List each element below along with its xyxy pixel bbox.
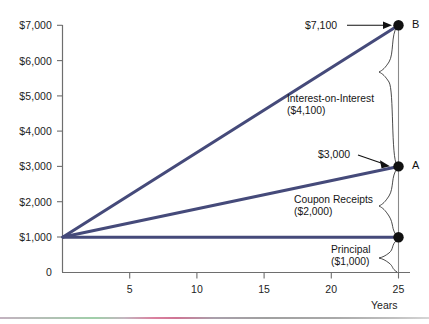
x-tick-label-10: 10 bbox=[191, 283, 203, 295]
brace-principal bbox=[379, 240, 397, 272]
y-tick-label-4000: $4,000 bbox=[2, 125, 52, 137]
callout-arrow-b bbox=[347, 22, 392, 29]
chart-canvas bbox=[0, 0, 429, 324]
x-tick-label-25: 25 bbox=[393, 283, 405, 295]
point-label-a: A bbox=[412, 159, 419, 171]
x-tick-label-5: 5 bbox=[127, 283, 133, 295]
annotation-coupon-receipts-amount: ($2,000) bbox=[294, 206, 373, 218]
callout-arrow-a bbox=[358, 155, 390, 168]
point-label-b: B bbox=[412, 18, 419, 30]
y-tick-label-0: 0 bbox=[2, 266, 52, 278]
brace-coupon-receipts bbox=[379, 169, 397, 236]
y-tick-label-6000: $6,000 bbox=[2, 55, 52, 67]
y-tick-label-2000: $2,000 bbox=[2, 196, 52, 208]
x-axis-title: Years bbox=[371, 299, 397, 311]
value-label-b: $7,100 bbox=[305, 19, 337, 31]
marker-point-b bbox=[393, 20, 403, 30]
y-tick-label-7000: $7,000 bbox=[2, 19, 52, 31]
callout-arrow-b-head bbox=[383, 22, 392, 29]
scan-edge-artifact bbox=[0, 317, 429, 319]
y-tick-label-3000: $3,000 bbox=[2, 160, 52, 172]
y-tick-label-5000: $5,000 bbox=[2, 90, 52, 102]
brace-interest-on-interest bbox=[379, 27, 397, 165]
x-tick-label-20: 20 bbox=[325, 283, 337, 295]
annotation-interest-on-interest-title: Interest-on-Interest bbox=[287, 93, 374, 104]
y-axis-ticks bbox=[57, 25, 63, 237]
value-label-a: $3,000 bbox=[318, 148, 350, 160]
annotation-principal-amount: ($1,000) bbox=[331, 256, 371, 268]
y-tick-label-1000: $1,000 bbox=[2, 231, 52, 243]
x-axis-ticks bbox=[130, 273, 399, 279]
chart-figure: $7,000 $6,000 $5,000 $4,000 $3,000 $2,00… bbox=[0, 0, 429, 324]
annotation-interest-on-interest-amount: ($4,100) bbox=[287, 105, 374, 117]
axis-lines bbox=[62, 25, 410, 273]
annotation-coupon-receipts: Coupon Receipts ($2,000) bbox=[294, 194, 373, 219]
marker-point-a bbox=[393, 161, 403, 171]
annotation-interest-on-interest: Interest-on-Interest ($4,100) bbox=[287, 93, 374, 118]
x-tick-label-15: 15 bbox=[258, 283, 270, 295]
annotation-coupon-receipts-title: Coupon Receipts bbox=[294, 194, 373, 205]
annotation-principal: Principal ($1,000) bbox=[331, 244, 371, 269]
marker-point-principal-end bbox=[393, 232, 403, 242]
callout-arrow-a-shaft bbox=[358, 155, 384, 164]
annotation-principal-title: Principal bbox=[331, 244, 371, 255]
